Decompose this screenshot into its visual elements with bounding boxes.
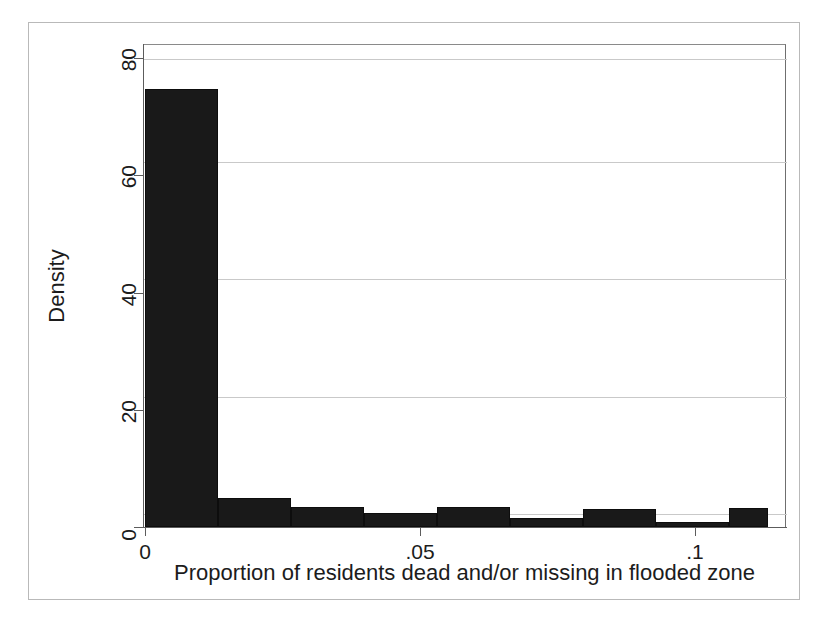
y-axis-tick-label: 0: [117, 529, 141, 541]
x-axis-title: Proportion of residents dead and/or miss…: [143, 560, 786, 586]
x-axis-tick: [145, 527, 146, 536]
y-axis-tick-label: 20: [117, 400, 141, 423]
histogram-bar: [583, 509, 656, 527]
y-axis-tick-label: 40: [117, 283, 141, 306]
y-axis-line: [143, 44, 144, 528]
histogram-bar: [510, 518, 583, 527]
gridline: [144, 59, 787, 60]
gridline: [144, 279, 787, 280]
x-axis-tick: [695, 527, 696, 536]
gridline: [144, 162, 787, 163]
y-axis-title: Density: [44, 249, 70, 322]
gridline: [144, 397, 787, 398]
histogram-bar: [145, 89, 218, 527]
y-axis-tick: [134, 527, 143, 528]
plot-area: [143, 44, 786, 527]
histogram-bar: [729, 508, 768, 527]
y-axis-tick-label: 60: [117, 165, 141, 188]
x-axis-tick: [420, 527, 421, 536]
histogram-bar: [291, 507, 364, 527]
y-axis-tick-label: 80: [117, 48, 141, 71]
x-axis-line: [143, 527, 787, 528]
histogram-bar: [218, 498, 291, 527]
histogram-bar: [364, 513, 437, 527]
histogram-bar: [656, 522, 729, 527]
histogram-figure: 0 20 40 60 80 0 .05 .1 Proportion of res…: [0, 0, 823, 631]
screenshot-root: 0 20 40 60 80 0 .05 .1 Proportion of res…: [0, 0, 823, 631]
histogram-bar: [437, 507, 510, 527]
